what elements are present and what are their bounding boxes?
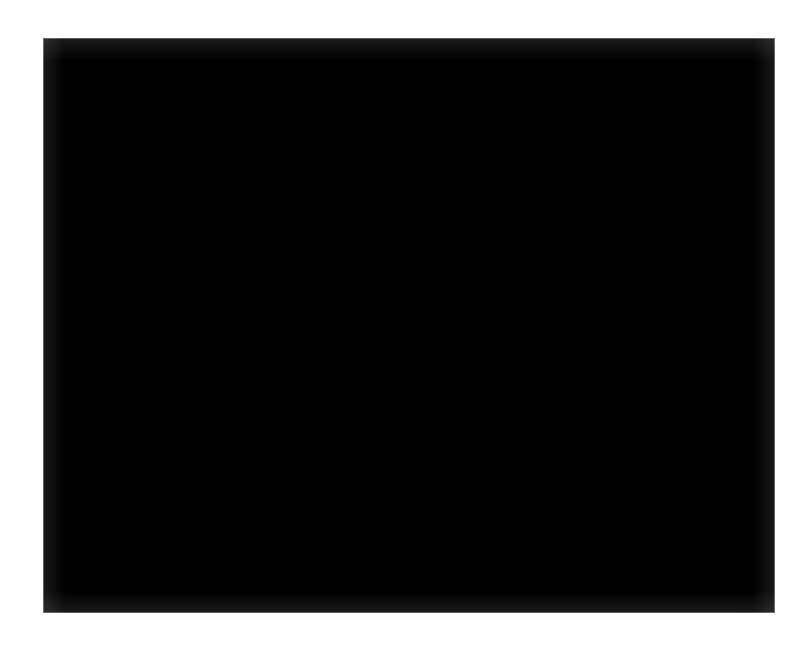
histopathology-micrograph-image	[43, 38, 775, 613]
figure-page	[0, 0, 808, 651]
micrograph-frame	[43, 38, 775, 613]
